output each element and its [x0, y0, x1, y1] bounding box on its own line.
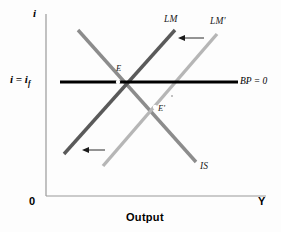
stray-dot: [171, 95, 173, 97]
y-tick-text: i = i: [10, 73, 28, 85]
curve-lm-prime: [103, 34, 217, 166]
shift-arrow-lower-icon: [82, 147, 105, 153]
point-e: [116, 80, 120, 84]
point-label-e-prime: E': [158, 104, 165, 113]
x-axis-label: Y: [258, 196, 265, 207]
curve-label-bp: BP = 0: [240, 77, 267, 87]
plot-area: [0, 0, 281, 232]
x-axis-caption: Output: [126, 212, 164, 223]
origin-label: 0: [29, 196, 35, 207]
point-e-prime: [153, 105, 157, 109]
shift-arrow-upper-icon: [178, 35, 204, 41]
curve-is: [78, 30, 196, 162]
is-lm-bp-diagram: i i = if 0 Y Output LM LM' IS BP = 0 E E…: [0, 0, 281, 232]
curve-label-is: IS: [200, 162, 208, 172]
curve-lm: [64, 30, 175, 154]
curve-label-lm: LM: [164, 15, 178, 25]
curve-label-lm-prime: LM': [210, 17, 226, 27]
y-tick-subscript: f: [28, 79, 31, 88]
y-axis-label: i: [33, 8, 36, 19]
point-label-e: E: [116, 64, 121, 73]
y-tick-label-if: i = if: [10, 74, 30, 88]
